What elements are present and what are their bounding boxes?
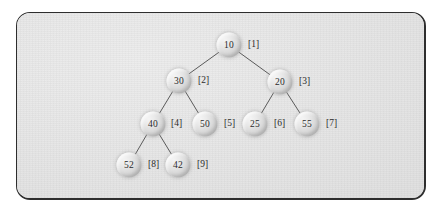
tree-node-value: 55 xyxy=(302,119,312,129)
tree-edge xyxy=(184,90,199,115)
tree-node-value: 25 xyxy=(250,119,260,129)
tree-node-52[interactable]: 52 xyxy=(117,153,142,178)
tree-node-42[interactable]: 42 xyxy=(166,153,191,178)
tree-node-value: 52 xyxy=(124,160,134,170)
tree-node-value: 20 xyxy=(275,77,285,87)
tree-node-10[interactable]: 10 xyxy=(217,33,242,58)
tree-node-index-label: [5] xyxy=(224,119,235,129)
tree-edge xyxy=(260,91,274,115)
tree-node-index-label: [4] xyxy=(171,119,182,129)
tree-node-index-label: [2] xyxy=(198,76,209,86)
tree-node-value: 40 xyxy=(148,119,158,129)
tree-edge xyxy=(237,51,271,76)
tree-edge xyxy=(188,51,221,75)
tree-node-40[interactable]: 40 xyxy=(141,112,166,137)
tree-node-index-label: [8] xyxy=(148,160,159,170)
tree-node-index-label: [6] xyxy=(274,119,285,129)
tree-node-25[interactable]: 25 xyxy=(243,112,268,137)
tree-node-30[interactable]: 30 xyxy=(167,69,192,94)
tree-node-value: 30 xyxy=(174,76,184,86)
tree-node-index-label: [3] xyxy=(299,77,310,87)
tree-node-index-label: [1] xyxy=(248,40,259,50)
tree-edge xyxy=(158,90,173,115)
binary-tree-diagram: 10[1]30[2]20[3]40[4]50[5]25[6]55[7]52[8]… xyxy=(17,13,424,198)
tree-edge xyxy=(158,133,172,156)
tree-node-20[interactable]: 20 xyxy=(268,70,293,95)
tree-edge xyxy=(134,133,147,156)
figure-panel: 10[1]30[2]20[3]40[4]50[5]25[6]55[7]52[8]… xyxy=(16,12,426,200)
tree-node-value: 50 xyxy=(200,119,210,129)
tree-node-value: 10 xyxy=(224,40,234,50)
tree-node-55[interactable]: 55 xyxy=(295,112,320,137)
tree-node-value: 42 xyxy=(173,160,183,170)
tree-node-index-label: [7] xyxy=(326,119,337,129)
tree-node-index-label: [9] xyxy=(197,160,208,170)
tree-edge xyxy=(286,91,302,115)
tree-node-50[interactable]: 50 xyxy=(193,112,218,137)
